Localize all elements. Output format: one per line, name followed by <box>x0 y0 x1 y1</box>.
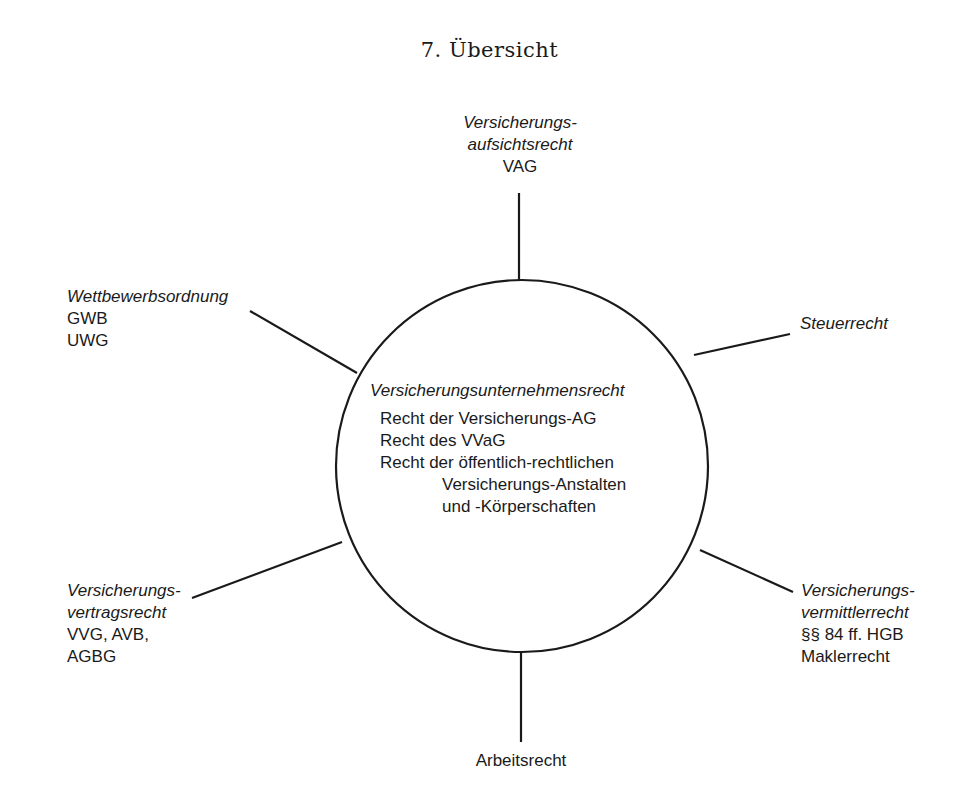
connector-upper-left <box>250 311 357 373</box>
node-law: Maklerrecht <box>801 646 915 668</box>
node-law: VAG <box>455 156 585 178</box>
node-label: vertragsrecht <box>67 602 181 624</box>
node-law: UWG <box>67 330 228 352</box>
node-versicherungsvermittlerrecht: Versicherungs- vermittlerrecht §§ 84 ff.… <box>801 580 915 668</box>
node-wettbewerbsordnung: Wettbewerbsordnung GWB UWG <box>67 286 228 352</box>
node-label: Steuerrecht <box>800 313 888 335</box>
center-content: Versicherungsunternehmensrecht Recht der… <box>370 380 626 518</box>
connector-upper-right <box>694 334 790 355</box>
center-line: Recht der Versicherungs-AG <box>380 408 626 430</box>
node-law: GWB <box>67 308 228 330</box>
node-versicherungsvertragsrecht: Versicherungs- vertragsrecht VVG, AVB, A… <box>67 580 181 668</box>
center-line: Recht der öffentlich-rechtlichen <box>380 452 626 474</box>
node-law: VVG, AVB, <box>67 624 181 646</box>
node-law: §§ 84 ff. HGB <box>801 624 915 646</box>
node-label: aufsichtsrecht <box>455 134 585 156</box>
node-label: Versicherungs- <box>801 580 915 602</box>
node-steuerrecht: Steuerrecht <box>800 313 888 335</box>
node-label: Versicherungs- <box>67 580 181 602</box>
node-law: Arbeitsrecht <box>455 750 587 772</box>
node-label: Versicherungs- <box>455 112 585 134</box>
center-line: Recht des VVaG <box>380 430 626 452</box>
node-law: AGBG <box>67 646 181 668</box>
node-label: vermittlerrecht <box>801 602 915 624</box>
node-versicherungsaufsichtsrecht: Versicherungs- aufsichtsrecht VAG <box>455 112 585 178</box>
center-line: und -Körperschaften <box>442 496 626 518</box>
connector-lower-left <box>192 542 342 598</box>
node-arbeitsrecht: Arbeitsrecht <box>455 750 587 772</box>
node-label: Wettbewerbsordnung <box>67 286 228 308</box>
center-heading: Versicherungsunternehmensrecht <box>370 380 626 402</box>
center-line: Versicherungs-Anstalten <box>442 474 626 496</box>
connector-lower-right <box>700 550 793 592</box>
